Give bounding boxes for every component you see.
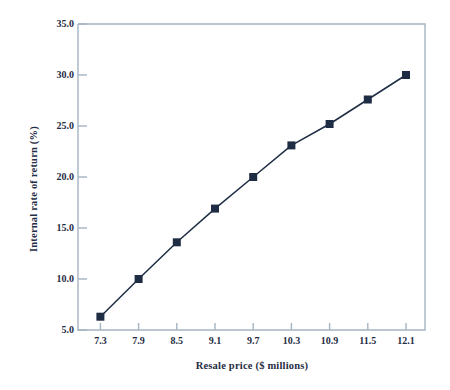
x-tick-label: 8.5 (157, 336, 197, 346)
x-axis-ticks (100, 323, 406, 330)
x-tick-label: 9.1 (195, 336, 235, 346)
data-point-marker (135, 275, 143, 283)
data-point-marker (326, 120, 334, 128)
x-tick-label: 12.1 (386, 336, 426, 346)
x-tick-label: 7.3 (80, 336, 120, 346)
data-point-marker (287, 141, 295, 149)
data-point-marker (364, 96, 372, 104)
data-point-markers (96, 71, 410, 321)
data-series-line (100, 75, 406, 317)
data-point-marker (402, 71, 410, 79)
x-tick-label: 7.9 (119, 336, 159, 346)
x-tick-label: 11.5 (348, 336, 388, 346)
data-point-marker (173, 238, 181, 246)
x-axis-title: Resale price ($ millions) (78, 360, 426, 371)
y-axis-title: Internal rate of return (%) (22, 24, 44, 354)
x-axis-tick-labels: 7.3 7.9 8.5 9.1 9.7 10.3 10.9 11.5 12.1 (0, 336, 450, 356)
x-tick-label: 10.9 (310, 336, 350, 346)
chart-figure: 35.0 30.0 25.0 20.0 15.0 10.0 5.0 7.3 7.… (0, 0, 450, 390)
x-tick-label: 9.7 (233, 336, 273, 346)
data-point-marker (96, 313, 104, 321)
data-point-marker (249, 173, 257, 181)
data-point-marker (211, 205, 219, 213)
x-tick-label: 10.3 (271, 336, 311, 346)
y-axis-ticks (78, 24, 87, 330)
